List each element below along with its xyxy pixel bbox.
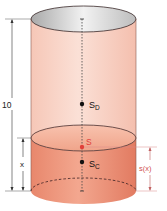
centroid-height-label: s(x) xyxy=(139,164,152,173)
cylinder-diagram: 10 x SD S SC s(x) xyxy=(0,0,167,211)
height-label: 10 xyxy=(2,100,12,110)
centroid-can-point xyxy=(80,102,84,106)
liquid-body xyxy=(31,125,136,204)
combined-centroid-point xyxy=(80,145,84,149)
combined-centroid-label: S xyxy=(86,137,92,147)
centroid-liquid-point xyxy=(80,160,84,164)
fill-height-label: x xyxy=(20,160,24,169)
